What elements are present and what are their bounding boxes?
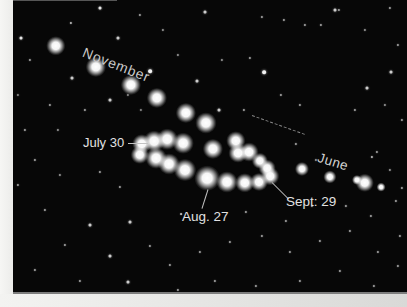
star <box>371 156 373 158</box>
star <box>59 174 61 176</box>
star <box>221 59 223 61</box>
planet-dot-retrograde_loop <box>235 173 254 192</box>
star <box>99 7 102 10</box>
star <box>79 280 81 282</box>
star <box>261 235 263 237</box>
star <box>177 289 179 291</box>
star <box>377 251 379 253</box>
star <box>395 200 397 202</box>
planet-dot-june_trail <box>356 174 374 192</box>
star <box>397 44 399 46</box>
star <box>384 104 386 106</box>
star <box>262 70 266 74</box>
star <box>338 9 340 11</box>
faint-dashed-trail <box>252 115 305 135</box>
star <box>177 54 179 56</box>
star <box>304 24 306 26</box>
star <box>397 265 399 267</box>
star <box>84 109 86 111</box>
star <box>255 285 257 287</box>
star <box>229 241 231 243</box>
planet-dot-june_trail <box>323 170 336 183</box>
star <box>162 29 164 31</box>
star <box>299 104 301 106</box>
star <box>117 37 120 40</box>
star <box>71 77 74 80</box>
star <box>283 19 285 21</box>
retrograde-motion-photo: November July 30 Aug. 27 Sept: 29 June <box>0 0 407 307</box>
aug27-pointer-line <box>202 189 209 208</box>
star <box>57 129 59 131</box>
star <box>34 159 36 161</box>
star <box>373 285 375 287</box>
star <box>243 109 245 111</box>
star <box>17 184 19 186</box>
star <box>218 109 221 112</box>
star <box>140 109 142 111</box>
star <box>285 220 287 222</box>
star <box>299 280 301 282</box>
planet-dot-retrograde_loop <box>216 171 237 192</box>
annotation-layer <box>0 0 407 307</box>
label-aug-27: Aug. 27 <box>182 210 229 224</box>
star <box>29 59 31 61</box>
planet-dot-retrograde_loop <box>203 139 223 159</box>
label-july-30: July 30 <box>83 136 124 149</box>
star <box>389 169 391 171</box>
label-sept-29: Sept: 29 <box>286 195 336 209</box>
star <box>20 37 23 40</box>
star <box>214 280 216 282</box>
star <box>376 151 378 153</box>
star <box>364 29 366 31</box>
planet-dot-june_trail <box>295 162 309 176</box>
star <box>70 22 72 24</box>
star <box>345 205 347 207</box>
star <box>354 109 356 111</box>
planet-dot-november_trail <box>46 36 65 55</box>
planet-dot-retrograde_loop <box>173 133 194 154</box>
star <box>24 129 26 131</box>
star <box>339 270 341 272</box>
star <box>319 240 321 242</box>
planet-dot-november_trail <box>195 112 216 133</box>
planet-dot-june_trail <box>377 183 386 192</box>
star <box>401 187 403 189</box>
star <box>389 7 391 9</box>
star <box>261 16 263 18</box>
star <box>349 230 351 232</box>
star <box>249 57 251 59</box>
star <box>390 71 393 74</box>
star <box>109 99 112 102</box>
star <box>401 119 403 121</box>
star <box>127 281 130 284</box>
star <box>44 209 46 211</box>
star <box>280 94 282 96</box>
planet-dot-november_trail <box>147 88 167 108</box>
star <box>366 87 369 90</box>
star <box>320 24 322 26</box>
star <box>334 9 337 12</box>
july30-pointer-line <box>128 143 148 144</box>
star <box>199 251 201 253</box>
star <box>196 80 199 83</box>
star <box>399 235 401 237</box>
star <box>64 244 66 246</box>
star <box>139 14 141 16</box>
star <box>17 94 19 96</box>
star <box>169 264 171 266</box>
star <box>109 255 112 258</box>
star <box>295 143 297 145</box>
star <box>129 221 132 224</box>
star <box>245 211 247 213</box>
planet-dot-retrograde_loop <box>229 144 248 163</box>
star <box>370 215 372 217</box>
star <box>34 269 36 271</box>
planet-dot-november_trail <box>176 103 196 123</box>
star <box>49 104 51 106</box>
star <box>289 251 291 253</box>
star <box>204 11 207 14</box>
star <box>149 245 151 247</box>
planet-dot-retrograde_loop <box>195 166 220 191</box>
star <box>99 171 101 173</box>
star <box>119 186 121 188</box>
